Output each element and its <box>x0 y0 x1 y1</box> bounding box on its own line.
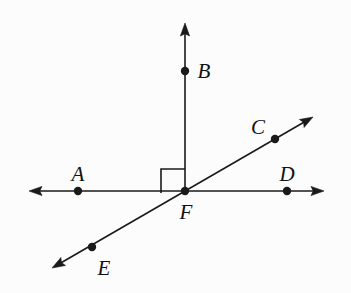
point-label-C: C <box>251 117 265 138</box>
point-label-D: D <box>279 164 294 185</box>
line-EC-arrowhead-start <box>52 258 66 268</box>
line-AD <box>29 186 324 195</box>
point-dot-F <box>181 187 189 195</box>
line-AD-arrowhead-end <box>311 186 324 195</box>
ray-FB <box>180 23 189 191</box>
geometry-figure: ABCDEF <box>0 0 351 293</box>
point-dot-C <box>271 135 279 143</box>
point-dot-D <box>283 187 291 195</box>
geometry-canvas <box>0 0 351 293</box>
point-dot-A <box>74 187 82 195</box>
point-dot-B <box>181 67 189 75</box>
point-dot-E <box>88 243 96 251</box>
point-label-A: A <box>72 164 85 185</box>
ray-FB-arrowhead-end <box>180 23 189 36</box>
line-EC-arrowhead-end <box>299 117 313 127</box>
point-label-E: E <box>98 258 111 279</box>
line-AD-arrowhead-start <box>29 186 42 195</box>
point-label-F: F <box>180 202 193 223</box>
point-label-B: B <box>198 61 211 82</box>
